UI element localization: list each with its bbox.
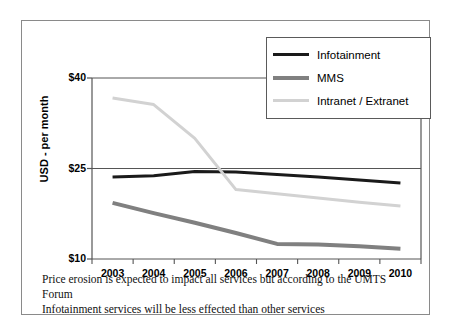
y-tick-label: $40 — [44, 71, 86, 83]
data-series-lines — [113, 98, 401, 249]
legend-item[interactable]: Infotainment — [273, 43, 424, 66]
legend-line-swatch — [273, 99, 309, 102]
legend-label: Intranet / Extranet — [317, 95, 408, 107]
y-tick-label: $10 — [44, 252, 86, 264]
legend-item[interactable]: MMS — [273, 66, 424, 89]
caption-line-2: Infotainment services will be less effec… — [42, 302, 413, 317]
caption-line-1: Price erosion is expected to impact all … — [42, 272, 413, 302]
y-tick-label: $25 — [44, 162, 86, 174]
legend-label: Infotainment — [317, 49, 380, 61]
chart-figure: $10$25$40 200320042005200620072008200920… — [21, 20, 430, 315]
plot-area: $10$25$40 200320042005200620072008200920… — [22, 21, 429, 264]
chart-legend: InfotainmentMMSIntranet / Extranet — [266, 37, 431, 119]
legend-line-swatch — [273, 53, 309, 56]
y-axis-title: USD - per month — [38, 79, 50, 199]
legend-item[interactable]: Intranet / Extranet — [273, 89, 424, 112]
legend-label: MMS — [317, 72, 344, 84]
series-line — [113, 203, 401, 249]
series-line — [113, 172, 401, 183]
legend-line-swatch — [273, 76, 309, 80]
figure-caption: Price erosion is expected to impact all … — [22, 264, 429, 317]
